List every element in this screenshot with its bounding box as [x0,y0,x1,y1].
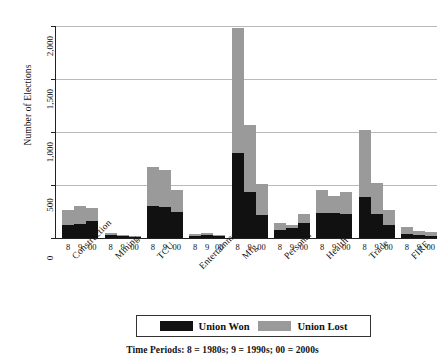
bar-segment-union-lost [62,210,74,225]
y-tick-label-1500: 1,500 [45,79,55,119]
bar-mining-9 [117,235,129,238]
bar-segment-union-won [401,234,413,238]
bar-segment-union-lost [359,130,371,197]
bar-segment-union-lost [401,227,413,234]
bar-segment-union-won [189,236,201,238]
bar-segment-union-lost [244,125,256,193]
y-tick-label-2000: 2,000 [45,26,55,66]
y-tick-label-1000: 1,000 [45,132,55,172]
bar-entertainment-9 [201,233,213,238]
bar-health-8 [316,190,328,238]
bar-fire-00 [425,232,437,238]
legend-label-won: Union Won [199,321,250,332]
bar-segment-union-won [159,207,171,238]
bar-tcu-9 [159,170,171,238]
chart-caption: Time Periods: 8 = 1980s; 9 = 1990s; 00 =… [0,345,445,355]
bar-segment-union-lost [340,192,352,214]
bar-construction-8 [62,210,74,238]
period-label-8: 8 [189,242,201,252]
bar-chart: Number of Elections 05001,0001,5002,000 … [0,0,445,364]
bar-segment-union-lost [159,170,171,207]
bar-segment-union-lost [298,214,310,223]
bar-segment-union-lost [74,206,86,223]
bar-mfg-9 [244,125,256,238]
bar-mining-8 [105,233,117,238]
bar-segment-union-won [359,197,371,238]
bar-segment-union-won [201,235,213,238]
bar-segment-union-won [74,224,86,238]
bar-segment-union-won [244,192,256,238]
bar-segment-union-won [371,214,383,238]
bar-segment-union-lost [274,223,286,230]
legend-swatch-won [160,321,193,331]
y-tick-label-0: 0 [45,238,55,278]
bar-tcu-00 [171,190,183,238]
legend: Union Won Union Lost [136,315,371,337]
bar-mfg-8 [232,28,244,238]
bar-segment-union-lost [147,167,159,206]
bar-segment-union-won [117,236,129,238]
bar-segment-union-won [316,213,328,238]
bar-fire-8 [401,227,413,238]
y-axis-title: Number of Elections [23,30,33,180]
bar-construction-9 [74,206,86,238]
y-tick-label-500: 500 [45,185,55,225]
bar-personal-8 [274,223,286,238]
bar-mfg-00 [256,184,268,238]
bar-tcu-8 [147,167,159,238]
bar-segment-union-won [147,206,159,238]
bar-segment-union-won [274,230,286,238]
bar-entertainment-8 [189,234,201,238]
bar-segment-union-won [256,215,268,238]
bar-trade-9 [371,183,383,238]
bar-segment-union-lost [86,208,98,220]
legend-label-lost: Union Lost [297,321,347,332]
bar-segment-union-lost [256,184,268,215]
bar-segment-union-won [383,225,395,238]
bar-personal-9 [286,225,298,238]
bar-segment-union-won [425,236,437,238]
bar-segment-union-won [105,235,117,238]
bar-health-9 [328,196,340,238]
legend-item-union-won: Union Won [160,321,250,332]
x-axis-line [55,238,437,239]
plot-area: 05001,0001,5002,000 [56,26,437,238]
legend-item-union-lost: Union Lost [258,321,347,332]
legend-swatch-lost [258,321,291,331]
bar-segment-union-lost [371,183,383,214]
bar-trade-00 [383,210,395,238]
bar-segment-union-lost [316,190,328,212]
bar-fire-9 [413,231,425,238]
bar-segment-union-lost [232,28,244,153]
bar-segment-union-won [62,225,74,238]
bar-segment-union-won [171,212,183,239]
bar-health-00 [340,192,352,238]
bar-segment-union-won [286,228,298,238]
bar-trade-8 [359,130,371,238]
bar-segment-union-won [413,235,425,238]
bar-segment-union-lost [171,190,183,211]
bar-segment-union-won [328,213,340,238]
bar-segment-union-lost [383,210,395,225]
bar-segment-union-lost [328,196,340,213]
